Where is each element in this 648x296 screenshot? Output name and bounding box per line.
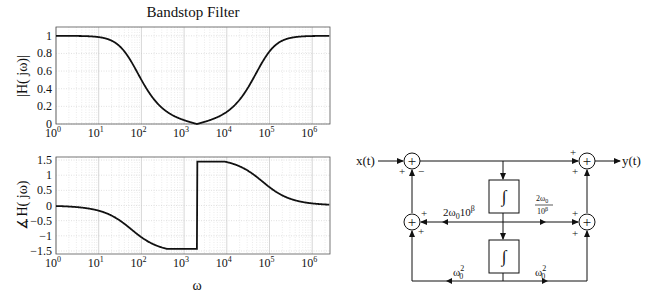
block-diagram: x(t) y(t) ∫ ∫ + [356,146,641,284]
svg-text:102: 102 [130,255,146,270]
svg-text:−1: −1 [39,229,52,243]
svg-text:0.2: 0.2 [37,99,52,113]
svg-text:+: + [583,153,591,169]
phase-y-ticks: −1.5−1−0.500.511.5 [30,153,52,258]
figure: Bandstop Filter 00.20.40.60.81 100101102… [0,0,648,296]
svg-text:+: + [399,165,405,177]
svg-text:105: 105 [259,255,275,270]
phase-plot: −1.5−1−0.500.511.5 100101102103104105106… [15,153,330,293]
svg-text:105: 105 [259,125,275,140]
svg-text:0.4: 0.4 [37,82,52,96]
gain-right-mid: 2ω0 10β [535,194,553,216]
svg-text:+: + [572,227,578,239]
magnitude-y-label: |H( jω)| [15,55,31,97]
gain-bottom-right: ω20 [535,264,546,281]
output-label: y(t) [622,153,641,168]
svg-text:+: + [408,214,416,230]
svg-text:1.5: 1.5 [37,153,52,167]
phase-grid [56,157,330,254]
svg-text:10β: 10β [537,206,548,216]
svg-text:100: 100 [45,255,61,270]
svg-text:1: 1 [46,29,52,43]
svg-text:106: 106 [301,255,317,270]
magnitude-grid [56,27,330,124]
svg-text:104: 104 [216,125,232,140]
input-label: x(t) [356,153,375,168]
svg-text:103: 103 [173,255,189,270]
svg-text:100: 100 [45,125,61,140]
svg-text:0.5: 0.5 [37,183,52,197]
gain-bottom-left: ω20 [453,264,464,281]
svg-text:+: + [583,214,591,230]
magnitude-x-ticks: 100101102103104105106 [45,125,317,140]
svg-text:+: + [572,207,578,219]
magnitude-y-ticks: 00.20.40.60.81 [37,29,52,131]
svg-text:+: + [421,207,427,219]
svg-text:102: 102 [130,125,146,140]
svg-text:101: 101 [88,125,104,140]
phase-x-label: ω [192,278,201,293]
svg-text:+: + [408,153,416,169]
phase-y-label: ∡H( jω) [15,180,31,229]
svg-text:106: 106 [301,125,317,140]
svg-text:0.6: 0.6 [37,64,52,78]
svg-text:103: 103 [173,125,189,140]
svg-text:0: 0 [46,199,52,213]
svg-text:0.8: 0.8 [37,46,52,60]
svg-text:−0.5: −0.5 [30,214,52,228]
magnitude-plot: 00.20.40.60.81 100101102103104105106 |H(… [15,27,330,140]
magnitude-axes-frame [56,27,330,124]
svg-text:+: + [570,146,576,158]
phase-x-ticks: 100101102103104105106 [45,255,317,270]
svg-text:104: 104 [216,255,232,270]
svg-text:101: 101 [88,255,104,270]
svg-text:−: − [418,165,424,177]
svg-text:2ω0: 2ω0 [536,194,548,204]
summer-mid-right: + [579,214,595,230]
svg-text:+: + [572,165,578,177]
svg-text:+: + [418,225,424,237]
gain-left-mid: 2ω010β [443,204,475,221]
summer-top-right: + [579,153,595,169]
chart-title: Bandstop Filter [147,4,240,20]
svg-text:1: 1 [46,168,52,182]
